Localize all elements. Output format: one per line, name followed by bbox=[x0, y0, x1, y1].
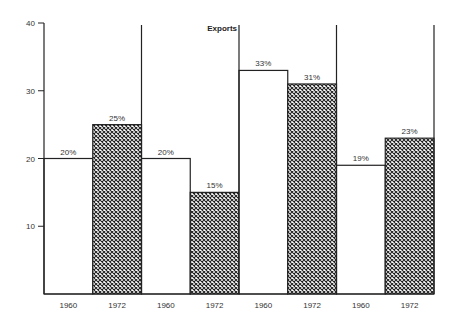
bar-1960-4 bbox=[337, 165, 386, 294]
value-label: 33% bbox=[255, 59, 271, 68]
y-tick-label: 10 bbox=[26, 222, 35, 231]
category-label: 1972 bbox=[206, 301, 224, 310]
category-label: 1960 bbox=[59, 301, 77, 310]
value-label: 20% bbox=[60, 148, 76, 157]
category-label: 1972 bbox=[303, 301, 321, 310]
bar-1972-4 bbox=[385, 138, 434, 294]
exports-bar-chart: 10203040 20%196025%197220%196015%197233%… bbox=[0, 0, 458, 329]
category-label: 1972 bbox=[401, 301, 419, 310]
bar-1972-3 bbox=[288, 84, 337, 294]
y-tick-label: 40 bbox=[26, 19, 35, 28]
value-label: 25% bbox=[109, 114, 125, 123]
value-label: 19% bbox=[353, 154, 369, 163]
category-label: 1960 bbox=[352, 301, 370, 310]
bar-1972-1 bbox=[93, 125, 142, 294]
value-label: 31% bbox=[304, 73, 320, 82]
value-label: 20% bbox=[158, 148, 174, 157]
bar-1960-3 bbox=[239, 70, 288, 294]
category-label: 1972 bbox=[108, 301, 126, 310]
y-tick-label: 20 bbox=[26, 155, 35, 164]
category-label: 1960 bbox=[157, 301, 175, 310]
bar-1960-1 bbox=[44, 159, 93, 295]
category-label: 1960 bbox=[254, 301, 272, 310]
bar-1972-2 bbox=[190, 192, 239, 294]
value-label: 15% bbox=[207, 181, 223, 190]
chart-title: Exports bbox=[207, 24, 237, 33]
y-tick-label: 30 bbox=[26, 87, 35, 96]
bar-1960-2 bbox=[142, 159, 191, 295]
value-label: 23% bbox=[402, 127, 418, 136]
